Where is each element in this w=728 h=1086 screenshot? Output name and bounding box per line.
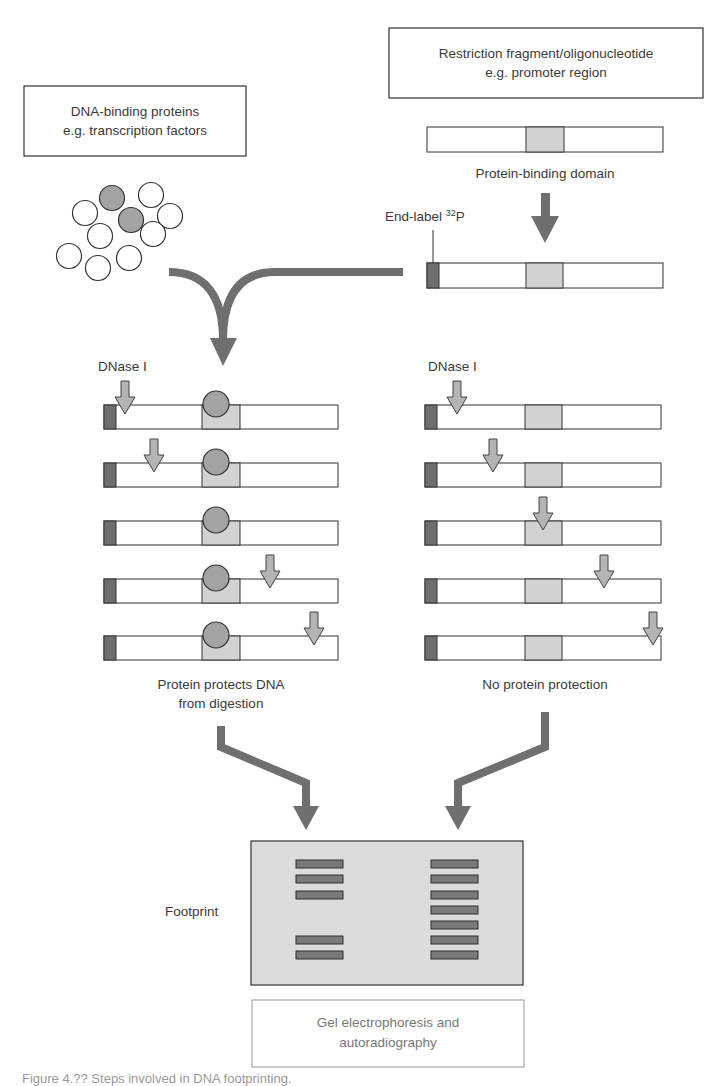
dna-fragment-labeled (427, 263, 663, 288)
radiolabel-cap (425, 636, 437, 660)
bound-protein-circle (203, 391, 229, 417)
protected-caption-line2: from digestion (179, 696, 264, 711)
protected-lanes (104, 381, 338, 660)
binding-domain (525, 405, 562, 429)
gel-lane-control (431, 860, 478, 959)
dna-fragment-unlabeled (427, 127, 663, 152)
footprint-label: Footprint (165, 904, 219, 919)
fragment-box-line1: Restriction fragment/oligonucleotide (439, 46, 654, 61)
dna-lane (104, 507, 338, 545)
binding-domain-label: Protein-binding domain (476, 166, 615, 181)
protected-caption-line1: Protein protects DNA (158, 677, 285, 692)
gel-band (296, 936, 343, 944)
gel-band (296, 875, 343, 883)
figure-caption: Figure 4.?? Steps involved in DNA footpr… (22, 1071, 292, 1086)
gel-band (431, 891, 478, 899)
bound-protein-circle (203, 449, 229, 475)
protein-bound-circle (100, 186, 125, 211)
binding-domain (526, 263, 563, 288)
radiolabel-cap (425, 405, 437, 429)
binding-domain (525, 463, 562, 487)
bound-protein-circle (203, 507, 229, 533)
protein-circle (86, 256, 111, 281)
dna-lane (425, 612, 663, 660)
dna-lane (104, 381, 338, 429)
gel-band (431, 875, 478, 883)
dna-lane (425, 381, 661, 429)
gel-band (431, 921, 478, 929)
binding-domain (525, 636, 562, 660)
radiolabel-cap (427, 263, 439, 288)
gel-band (431, 951, 478, 959)
radiolabel-cap (104, 636, 116, 660)
merge-arrow-icon (169, 272, 403, 366)
dna-lane (425, 497, 661, 545)
gel-method-line2: autoradiography (339, 1035, 437, 1050)
dna-lane (425, 439, 661, 487)
radiolabel-cap (104, 579, 116, 603)
gel-band (296, 891, 343, 899)
protein-circle (139, 183, 164, 208)
bound-protein-circle (203, 565, 229, 591)
binding-domain (526, 127, 564, 152)
end-label-text: End-label 32P (385, 208, 465, 224)
protein-bound-circle (119, 208, 144, 233)
protein-circle (73, 201, 98, 226)
fragment-box: Restriction fragment/oligonucleotide e.g… (389, 28, 703, 98)
gel-band (431, 906, 478, 914)
dnase-label-left: DNase I (98, 359, 147, 374)
radiolabel-cap (425, 521, 437, 545)
gel-band (296, 860, 343, 868)
proteins-box-line2: e.g. transcription factors (63, 123, 207, 138)
gel-band (431, 860, 478, 868)
binding-domain (525, 579, 562, 603)
down-arrow-icon (531, 193, 559, 243)
bound-protein-circle (203, 622, 229, 648)
protein-circle (141, 222, 166, 247)
unprotected-caption: No protein protection (482, 677, 607, 692)
proteins-box: DNA-binding proteins e.g. transcription … (24, 86, 246, 156)
dnase-label-right: DNase I (428, 359, 477, 374)
dna-lane (104, 612, 338, 660)
fragment-box-line2: e.g. promoter region (485, 65, 607, 80)
unprotected-lanes (425, 381, 663, 660)
proteins-box-line1: DNA-binding proteins (71, 104, 200, 119)
gel-method-line1: Gel electrophoresis and (317, 1015, 460, 1030)
left-to-gel-arrow-icon (221, 726, 319, 830)
gel-band (296, 951, 343, 959)
radiolabel-cap (104, 463, 116, 487)
right-to-gel-arrow-icon (445, 712, 545, 830)
gel-band (431, 936, 478, 944)
protein-circle (88, 224, 113, 249)
gel-method-box: Gel electrophoresis and autoradiography (252, 1000, 524, 1067)
radiolabel-cap (104, 405, 116, 429)
protein-cluster (57, 183, 183, 281)
dna-lane (425, 555, 661, 603)
dna-lane (104, 555, 338, 603)
dna-lane (104, 439, 338, 487)
gel (251, 841, 523, 985)
radiolabel-cap (104, 521, 116, 545)
protein-circle (117, 246, 142, 271)
protein-circle (57, 244, 82, 269)
radiolabel-cap (425, 579, 437, 603)
radiolabel-cap (425, 463, 437, 487)
